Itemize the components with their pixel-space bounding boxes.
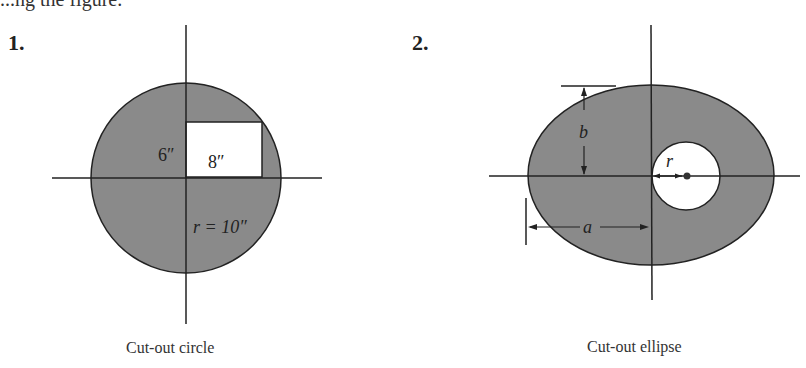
radius-label: r = 10″ [193,217,247,237]
b-label: b [579,122,588,142]
figures-canvas: 6″ 8″ r = 10″ b a r [0,0,806,368]
figure-2-caption: Cut-out ellipse [587,338,682,356]
width-label: 8″ [208,152,225,172]
height-label: 6″ [158,145,175,165]
figure-1-diagram: 6″ 8″ r = 10″ [52,25,322,324]
y-axis [651,25,652,300]
figure-1-caption: Cut-out circle [126,339,214,357]
a-label: a [583,217,592,237]
r-label: r [666,151,674,171]
hole-center-point [684,173,691,180]
figure-2-diagram: b a r [489,25,800,300]
